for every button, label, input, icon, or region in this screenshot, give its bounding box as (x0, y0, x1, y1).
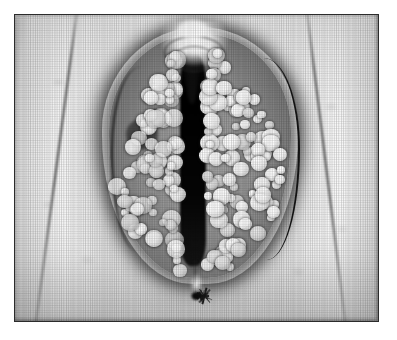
papule (204, 192, 212, 199)
papule (251, 156, 267, 171)
page-canvas (0, 0, 397, 340)
papule (243, 108, 253, 118)
papule (223, 173, 236, 186)
papule (206, 69, 217, 79)
clinical-photograph (15, 15, 378, 321)
papule (236, 90, 251, 104)
papule (216, 81, 231, 95)
papule (159, 219, 167, 226)
papule (125, 139, 141, 154)
papule (146, 110, 165, 128)
papule (153, 179, 165, 190)
papule (202, 171, 213, 181)
papule (167, 240, 186, 258)
papule (117, 195, 132, 209)
papule (165, 109, 184, 127)
papule (145, 154, 154, 162)
perineal-star-highlight (190, 273, 203, 288)
perineal-star-core (192, 292, 201, 300)
papule (275, 175, 284, 184)
papule (166, 69, 179, 81)
perineal-star (175, 278, 219, 312)
papule (233, 162, 248, 177)
papule (231, 243, 246, 257)
papule (223, 134, 240, 150)
papule (173, 264, 187, 277)
papule (246, 132, 257, 142)
papule (251, 143, 265, 156)
papule (213, 49, 222, 58)
papule (167, 162, 175, 170)
papule (170, 185, 177, 192)
figure-frame (14, 14, 379, 322)
papule (257, 111, 265, 119)
papule (239, 218, 252, 230)
papule (250, 226, 265, 241)
papule (123, 167, 136, 179)
papule (166, 96, 174, 104)
